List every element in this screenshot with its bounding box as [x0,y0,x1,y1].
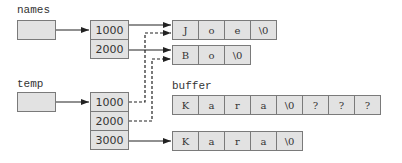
pointer-arrows [0,0,402,163]
dashed-arrow-temp-0 [129,33,171,102]
dashed-arrow-temp-1 [129,59,171,121]
